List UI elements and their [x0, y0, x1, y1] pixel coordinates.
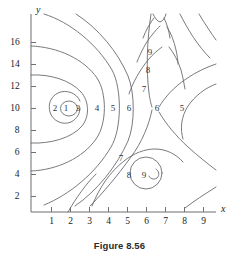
- contour-label-6-left: 6: [124, 104, 134, 113]
- y-tick-4: 4: [10, 169, 24, 179]
- contour-level-6-lower-right-branch: [159, 112, 216, 170]
- y-tick-12: 12: [6, 81, 24, 91]
- figure-container: y x 2 4 6 8 10 12 14 16 1 2 3 4 5 6 7 8 …: [0, 0, 239, 262]
- y-tick-16: 16: [6, 37, 24, 47]
- x-tick-5: 5: [121, 216, 134, 226]
- contour-label-3: 3: [73, 104, 83, 113]
- y-tick-14: 14: [6, 59, 24, 69]
- contour-label-9-upper: 9: [145, 48, 155, 57]
- contour-level-9-upper-right: [164, 18, 170, 38]
- contour-lines-group: [31, 14, 216, 212]
- figure-caption: Figure 8.56: [0, 240, 239, 251]
- contour-level-6-upper-right-branch: [159, 64, 216, 107]
- x-tick-8: 8: [178, 216, 191, 226]
- contour-label-9-lower: 9: [139, 171, 149, 180]
- contour-innermost-upper-peak: [153, 14, 166, 22]
- contour-label-4: 4: [92, 104, 102, 113]
- x-axis-ticks: [52, 207, 204, 212]
- y-tick-2: 2: [10, 191, 24, 201]
- x-tick-3: 3: [83, 216, 96, 226]
- y-tick-10: 10: [6, 103, 24, 113]
- y-axis-ticks: [31, 43, 36, 197]
- y-axis-label: y: [36, 4, 40, 15]
- x-axis-label: x: [221, 203, 225, 214]
- contour-label-5-right: 5: [177, 104, 187, 113]
- contour-plot: [0, 0, 239, 238]
- contour-label-1: 1: [61, 104, 71, 113]
- x-tick-1: 1: [45, 216, 58, 226]
- contour-level-9-lower: [149, 169, 159, 179]
- x-tick-4: 4: [102, 216, 115, 226]
- contour-label-2-left: 2: [50, 104, 60, 113]
- contour-label-7-upper: 7: [139, 85, 149, 94]
- x-tick-7: 7: [159, 216, 172, 226]
- contour-lower-right-tail: [185, 187, 216, 208]
- x-tick-9: 9: [197, 216, 210, 226]
- contour-upper-right-outer-a: [180, 14, 210, 58]
- y-tick-8: 8: [10, 125, 24, 135]
- x-tick-2: 2: [64, 216, 77, 226]
- axes-group: [31, 14, 216, 212]
- contour-label-8-upper: 8: [143, 66, 153, 75]
- x-tick-6: 6: [140, 216, 153, 226]
- contour-label-6-right: 6: [152, 104, 162, 113]
- y-tick-6: 6: [10, 147, 24, 157]
- contour-label-7-lower: 7: [116, 154, 126, 163]
- contour-label-5-left: 5: [108, 104, 118, 113]
- contour-label-8-lower: 8: [124, 171, 134, 180]
- contour-upper-right-outer-b: [199, 14, 216, 40]
